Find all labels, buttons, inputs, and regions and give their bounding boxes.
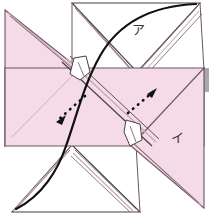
label-lower-flap: イ [171,130,184,145]
origami-diagram-canvas: ア イ [0,0,209,217]
label-upper-flap: ア [132,22,145,37]
origami-diagram-figure: ア イ [0,0,209,217]
scrollbar-sliver[interactable] [205,68,209,92]
